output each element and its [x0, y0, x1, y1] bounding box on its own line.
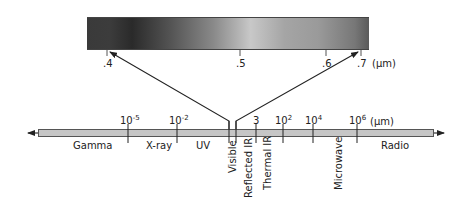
em-spectrum-diagram: .4 .5 .6 .7 (µm) 10-5 10-2 3 102 104 106… — [0, 0, 471, 213]
region-label-radio: Radio — [381, 140, 409, 152]
region-label-gamma: Gamma — [73, 140, 113, 152]
axis-tick-label: 102 — [275, 115, 292, 127]
axis-tick-label: 10-5 — [120, 115, 140, 127]
axis-ticks — [0, 0, 471, 213]
axis-tick-label: 104 — [305, 115, 322, 127]
region-label-microwave: Microwave — [333, 137, 345, 190]
region-label-reflected-ir: Reflected IR — [243, 138, 255, 198]
region-label-xray: X-ray — [146, 140, 172, 152]
region-label-thermal-ir: Thermal IR — [262, 136, 274, 190]
axis-unit-label: (µm) — [370, 116, 394, 128]
axis-tick-label: 10-2 — [169, 115, 189, 127]
region-label-uv: UV — [196, 140, 210, 152]
region-label-visible: Visible — [227, 140, 239, 173]
axis-tick-label: 106 — [349, 115, 366, 127]
axis-tick-label: 3 — [253, 115, 259, 127]
